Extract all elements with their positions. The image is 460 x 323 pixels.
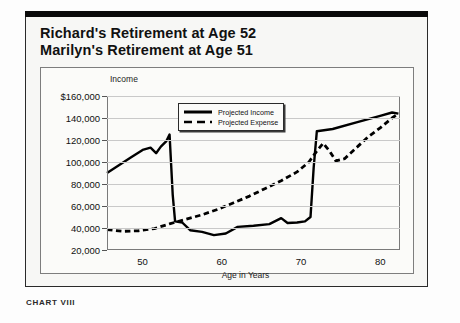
y-tick-mark <box>102 250 107 251</box>
y-tick-mark <box>102 206 107 207</box>
y-tick-mark <box>102 140 107 141</box>
y-tick-label: 60,000 <box>71 201 100 212</box>
y-tick-mark <box>102 184 107 185</box>
gridline <box>107 184 400 185</box>
gridline <box>107 140 400 141</box>
chart-caption: CHART VIII <box>26 298 75 307</box>
y-tick-mark <box>102 162 107 163</box>
x-tick-label: 80 <box>375 256 386 267</box>
legend-label-income: Projected Income <box>218 108 274 117</box>
chart-page: Richard's Retirement at Age 52 Marilyn's… <box>0 0 460 323</box>
y-tick-label: $160,000 <box>60 91 100 102</box>
gridline <box>107 162 400 163</box>
legend-label-expense: Projected Expense <box>218 118 278 127</box>
y-tick-mark <box>102 118 107 119</box>
y-tick-label: 40,000 <box>71 223 100 234</box>
y-tick-label: 140,000 <box>66 113 100 124</box>
page-title: Richard's Retirement at Age 52 Marilyn's… <box>40 25 256 58</box>
y-tick-mark <box>102 96 107 97</box>
legend-item-income: Projected Income <box>183 107 278 117</box>
gridline <box>107 96 400 97</box>
y-tick-label: 20,000 <box>71 245 100 256</box>
y-axis-title: Income <box>110 74 138 84</box>
legend-swatch-solid-icon <box>183 107 213 117</box>
x-tick-label: 60 <box>217 256 228 267</box>
title-line-1: Richard's Retirement at Age 52 <box>40 25 256 42</box>
y-tick-label: 120,000 <box>66 135 100 146</box>
y-tick-label: 100,000 <box>66 157 100 168</box>
gridline <box>107 206 400 207</box>
gridline <box>107 228 400 229</box>
x-tick-label: 70 <box>296 256 307 267</box>
chart-legend: Projected Income Projected Expense <box>178 103 284 131</box>
legend-swatch-dashed-icon <box>183 117 213 127</box>
x-axis-title: Age in Years <box>222 270 270 280</box>
legend-item-expense: Projected Expense <box>183 117 278 127</box>
title-line-2: Marilyn's Retirement at Age 51 <box>40 42 256 59</box>
y-tick-mark <box>102 228 107 229</box>
x-tick-label: 50 <box>137 256 148 267</box>
y-tick-label: 80,000 <box>71 179 100 190</box>
